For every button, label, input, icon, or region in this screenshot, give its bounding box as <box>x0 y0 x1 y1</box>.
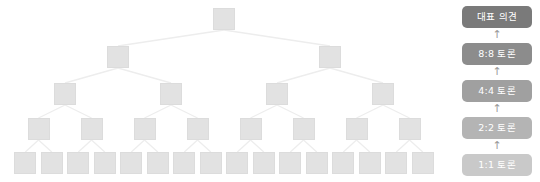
tree-node-level-2v2[interactable] <box>346 118 368 140</box>
tree-edge <box>277 68 330 83</box>
stage-pill-2[interactable]: 8:8 토론 <box>462 43 532 65</box>
tree-node-level-2v2[interactable] <box>28 118 50 140</box>
tree-node-level-8v8[interactable] <box>319 46 341 68</box>
tree-node-level-1v1[interactable] <box>200 152 222 174</box>
tree-node-level-1v1[interactable] <box>14 152 36 174</box>
tournament-tree <box>0 0 448 182</box>
tree-node-level-1v1[interactable] <box>306 152 328 174</box>
tree-edge <box>145 105 172 118</box>
tree-node-level-8v8[interactable] <box>107 46 129 68</box>
tree-node-level-1v1[interactable] <box>147 152 169 174</box>
tree-edge <box>277 105 304 118</box>
tree-node-level-1v1[interactable] <box>120 152 142 174</box>
tree-edge <box>198 140 211 152</box>
tree-node-level-1v1[interactable] <box>173 152 195 174</box>
tree-node-level-1v1[interactable] <box>41 152 63 174</box>
stage-pill-3[interactable]: 4:4 토론 <box>462 80 532 102</box>
tree-edge <box>171 105 198 118</box>
tree-edge <box>330 68 383 83</box>
tree-node-level-2v2[interactable] <box>134 118 156 140</box>
tree-node-level-4v4[interactable] <box>372 83 394 105</box>
tree-node-level-2v2[interactable] <box>240 118 262 140</box>
tree-edge <box>118 30 224 46</box>
tree-edge <box>39 105 66 118</box>
tree-edge <box>65 105 92 118</box>
stage-up-arrow-icon: ↑ <box>462 139 532 153</box>
tree-edge <box>304 140 317 152</box>
stage-pill-1[interactable]: 대표 의견 <box>462 6 532 28</box>
tree-edge <box>184 140 197 152</box>
tree-node-level-1v1[interactable] <box>332 152 354 174</box>
tree-node-root[interactable] <box>213 8 235 30</box>
tree-node-level-1v1[interactable] <box>94 152 116 174</box>
stage-legend: 대표 의견8:8 토론4:4 토론2:2 토론1:1 토론↑↑↑↑ <box>448 0 540 182</box>
tree-node-level-2v2[interactable] <box>293 118 315 140</box>
tree-edge <box>251 140 264 152</box>
tree-edge <box>343 140 356 152</box>
tree-node-level-2v2[interactable] <box>399 118 421 140</box>
tree-edge <box>39 140 52 152</box>
tree-edge <box>383 105 410 118</box>
stage-up-arrow-icon: ↑ <box>462 28 532 42</box>
tree-edge <box>224 30 330 46</box>
stage-pill-4[interactable]: 2:2 토론 <box>462 117 532 139</box>
tree-node-level-1v1[interactable] <box>253 152 275 174</box>
tree-edge <box>145 140 158 152</box>
tree-edge <box>251 105 278 118</box>
tree-edge <box>131 140 144 152</box>
stage-up-arrow-icon: ↑ <box>462 65 532 79</box>
tree-edge <box>290 140 303 152</box>
tree-edge <box>237 140 250 152</box>
tree-node-level-2v2[interactable] <box>187 118 209 140</box>
diagram-root: 대표 의견8:8 토론4:4 토론2:2 토론1:1 토론↑↑↑↑ <box>0 0 540 182</box>
tree-edge <box>78 140 91 152</box>
tree-node-level-1v1[interactable] <box>359 152 381 174</box>
stage-pill-5[interactable]: 1:1 토론 <box>462 154 532 176</box>
tree-node-level-4v4[interactable] <box>54 83 76 105</box>
tree-edge <box>118 68 171 83</box>
tree-node-level-2v2[interactable] <box>81 118 103 140</box>
tree-edge <box>357 140 370 152</box>
tree-edge <box>25 140 38 152</box>
tree-edge <box>410 140 423 152</box>
tree-node-level-1v1[interactable] <box>385 152 407 174</box>
tree-edge <box>357 105 384 118</box>
stage-up-arrow-icon: ↑ <box>462 102 532 116</box>
tree-node-level-4v4[interactable] <box>266 83 288 105</box>
tree-edge <box>65 68 118 83</box>
tree-node-level-1v1[interactable] <box>67 152 89 174</box>
tree-edge <box>92 140 105 152</box>
tree-node-level-1v1[interactable] <box>412 152 434 174</box>
tree-node-level-4v4[interactable] <box>160 83 182 105</box>
tree-edge <box>396 140 409 152</box>
tree-node-level-1v1[interactable] <box>226 152 248 174</box>
tree-node-level-1v1[interactable] <box>279 152 301 174</box>
